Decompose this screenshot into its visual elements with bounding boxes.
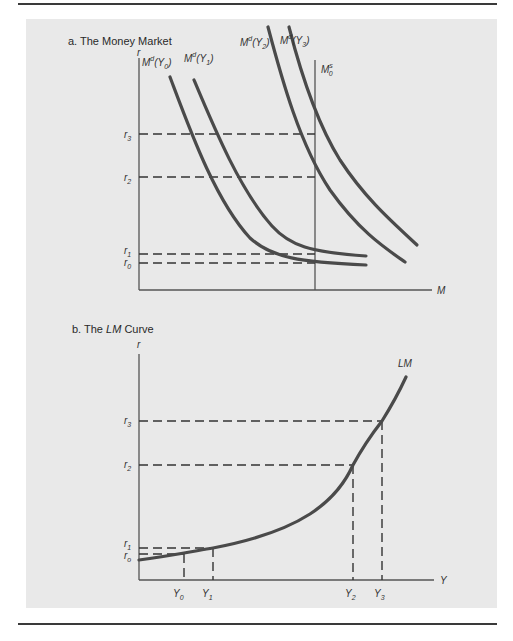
income-label-y1: Y1	[202, 588, 213, 601]
lm-rate-label-r3: r3	[124, 415, 131, 428]
md-y1-label: Md(Y1)	[184, 51, 214, 66]
income-label-y0: Y0	[173, 588, 184, 601]
y-axis-label-b: r	[137, 339, 141, 350]
rate-label-r0: r0	[124, 257, 131, 270]
x-axis-label-b: Y	[440, 575, 448, 586]
panel-money-market: a. The Money Market r M Ms0 r3 r2 r1 r0	[68, 27, 446, 296]
lm-curve-label: LM	[398, 358, 413, 369]
lm-guides	[139, 421, 382, 580]
panel-b-title: b. The LM Curve	[72, 323, 154, 335]
md-y2-label: Md(Y2)	[240, 35, 270, 50]
md-y2-curve	[268, 27, 405, 262]
y-axis-label: r	[137, 47, 141, 58]
md-y0-curve	[170, 77, 366, 265]
md-y1-curve	[194, 80, 366, 256]
md-y0-label: Md(Y0)	[142, 55, 172, 70]
figure: a. The Money Market r M Ms0 r3 r2 r1 r0	[0, 0, 513, 641]
lm-rate-label-r0: ro	[124, 550, 131, 563]
md-y3-label: Md(Y3)	[280, 33, 310, 48]
md-y3-curve	[289, 27, 417, 245]
lm-rate-label-r2: r2	[124, 459, 131, 472]
panel-a-title: a. The Money Market	[68, 35, 172, 47]
rate-label-r2: r2	[124, 172, 131, 185]
income-label-y2: Y2	[345, 588, 356, 601]
x-axis-label: M	[437, 285, 446, 296]
panel-lm-curve: b. The LM Curve r Y LM r3 r2 r1 ro Y0 Y1…	[72, 323, 448, 601]
income-label-y3: Y3	[374, 588, 385, 601]
money-supply-label: Ms0	[321, 62, 333, 77]
lm-curve	[139, 377, 406, 560]
rate-label-r3: r3	[124, 129, 131, 142]
